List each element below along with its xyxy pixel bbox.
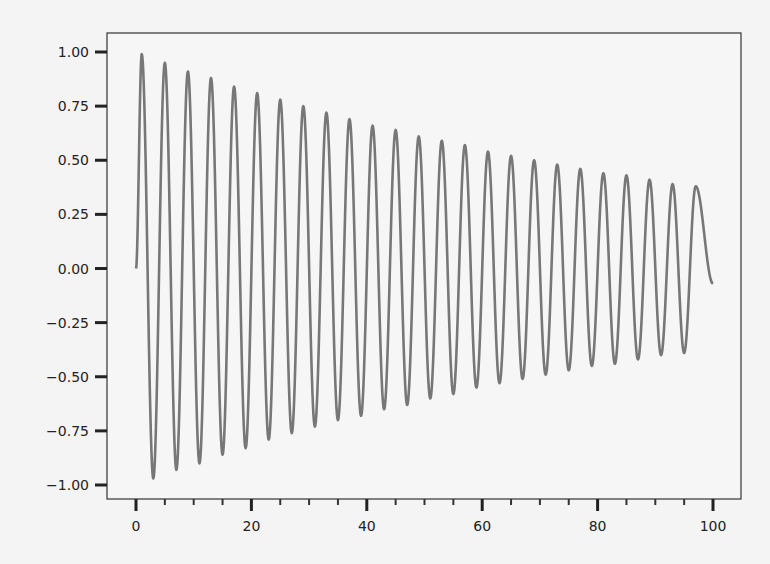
y-tick-label: −0.75: [46, 423, 89, 439]
y-tick-label: 0.25: [58, 206, 89, 222]
y-tick-label: 1.00: [58, 44, 89, 60]
chart: 1.000.750.500.250.00−0.25−0.50−0.75−1.00…: [0, 0, 770, 564]
x-tick-label: 100: [700, 518, 727, 534]
y-tick-label: 0.50: [58, 152, 89, 168]
x-tick-label: 40: [358, 518, 376, 534]
x-tick-label: 20: [242, 518, 260, 534]
x-tick-label: 60: [473, 518, 491, 534]
y-tick-label: −0.25: [46, 315, 89, 331]
y-tick-label: −1.00: [46, 477, 89, 493]
y-tick-label: −0.50: [46, 369, 89, 385]
y-tick-label: 0.75: [58, 98, 89, 114]
x-tick-label: 80: [589, 518, 607, 534]
y-tick-label: 0.00: [58, 261, 89, 277]
x-tick-label: 0: [132, 518, 141, 534]
